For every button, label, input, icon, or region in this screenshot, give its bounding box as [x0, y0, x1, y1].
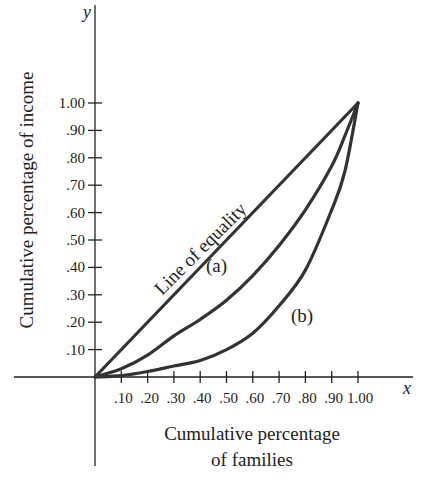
x-tick-label: .60 [245, 390, 264, 406]
x-tick-label: .70 [272, 390, 291, 406]
x-tick-label: .30 [167, 390, 186, 406]
y-tick-label: .10 [66, 342, 85, 358]
x-tick-label: .80 [298, 390, 317, 406]
y-tick-label: .20 [66, 314, 85, 330]
annotation-curve-b: (b) [291, 305, 313, 327]
lorenz-curve-chart: .10.20.30.40.50.60.70.80.901.00 .10.20.3… [0, 0, 423, 492]
annotation-curve-a: (a) [206, 255, 227, 277]
y-tick-label: .90 [66, 122, 85, 138]
x-tick-label: .50 [219, 390, 238, 406]
y-tick-label: .80 [66, 150, 85, 166]
annotation-line-of-equality: Line of equality [150, 198, 251, 299]
y-tick-label: 1.00 [59, 95, 85, 111]
y-tick-label: .70 [66, 177, 85, 193]
y-tick-label: .30 [66, 287, 85, 303]
x-tick-label: .40 [193, 390, 212, 406]
x-axis-title-line-1: Cumulative percentage [164, 423, 340, 444]
x-tick-label: .10 [114, 390, 133, 406]
y-axis-variable: y [81, 2, 91, 22]
x-tick-label: .20 [140, 390, 159, 406]
x-ticks: .10.20.30.40.50.60.70.80.901.00 [114, 371, 373, 406]
x-axis-title-line-2: of families [211, 449, 293, 470]
x-tick-label: .90 [324, 390, 343, 406]
x-tick-label: 1.00 [347, 390, 373, 406]
curves [95, 103, 358, 377]
x-axis-variable: x [402, 378, 411, 398]
y-tick-label: .60 [66, 205, 85, 221]
y-tick-label: .50 [66, 232, 85, 248]
y-axis-title: Cumulative percentage of income [16, 72, 37, 329]
y-tick-label: .40 [66, 259, 85, 275]
